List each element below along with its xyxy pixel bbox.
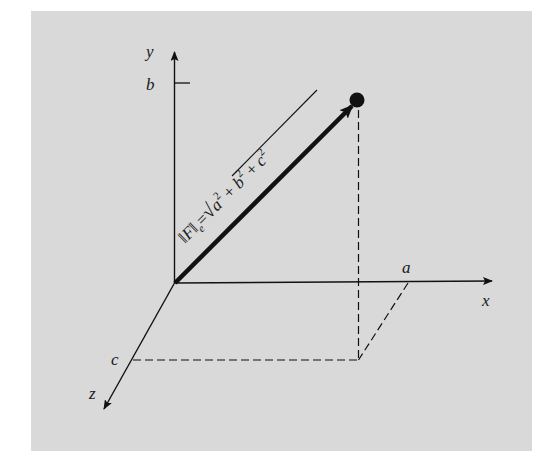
x-axis: [175, 281, 493, 283]
endpoint-dot: [350, 93, 365, 108]
z-axis: [104, 283, 175, 409]
z-axis-label: z: [88, 384, 96, 403]
x-axis-label: x: [481, 291, 490, 310]
c-label: c: [111, 350, 119, 369]
a-label: a: [402, 258, 411, 277]
dashed-x-projection: [359, 283, 409, 360]
force-vector: [175, 106, 352, 283]
b-label: b: [146, 75, 155, 94]
vector-diagram: y b a x c z ‖F‖e=√a2+b2+c2: [0, 0, 553, 475]
y-axis-label: y: [144, 42, 154, 61]
